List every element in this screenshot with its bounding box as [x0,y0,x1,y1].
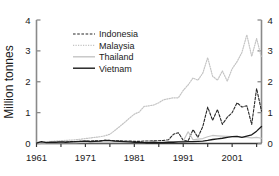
x-tick-label: 2001 [222,152,243,163]
y-tick-label-right: 3 [268,45,273,56]
y-tick-label-left: 3 [25,45,30,56]
y-tick-label-left: 1 [25,107,30,118]
chart-container: 01234 01234 19611971198119912001 Million… [0,0,279,176]
y-tick-label-right: 1 [268,107,273,118]
chart-background [0,0,279,176]
y-tick-label-right: 2 [268,76,273,87]
y-tick-label-left: 4 [25,15,30,26]
legend-label-indonesia: Indonesia [99,29,138,39]
legend-label-vietnam: Vietnam [99,64,132,74]
y-tick-label-right: 4 [268,15,273,26]
x-tick-label: 1991 [173,152,194,163]
line-chart: 01234 01234 19611971198119912001 Million… [0,0,279,176]
legend-label-malaysia: Malaysia [99,41,135,51]
y-tick-label-left: 0 [25,138,30,149]
y-tick-label-right: 0 [268,138,273,149]
legend-label-thailand: Thailand [99,52,134,62]
y-axis-title: Million tonnes [2,45,16,118]
x-tick-label: 1961 [26,152,47,163]
y-tick-label-left: 2 [25,76,30,87]
x-tick-label: 1971 [75,152,96,163]
x-tick-label: 1981 [124,152,145,163]
